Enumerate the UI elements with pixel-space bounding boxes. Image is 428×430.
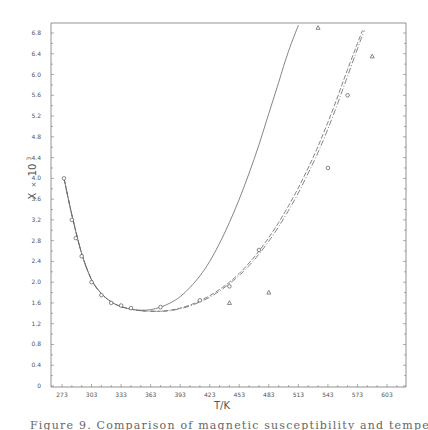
y-axis: 00.40.81.21.62.02.42.83.23.64.04.44.85.2… bbox=[31, 29, 406, 389]
data-point-circle bbox=[228, 285, 232, 289]
y-tick-label: 6.0 bbox=[31, 71, 41, 78]
x-tick-label: 423 bbox=[204, 391, 216, 398]
data-point-circle bbox=[109, 301, 113, 305]
y-tick-label: 2.8 bbox=[31, 237, 41, 244]
data-point-circle bbox=[100, 293, 104, 297]
data-point-circle bbox=[62, 177, 66, 181]
data-point-circle bbox=[326, 166, 330, 170]
y-tick-label: 1.6 bbox=[31, 299, 41, 306]
curve-dashed bbox=[64, 30, 362, 311]
x-tick-label: 603 bbox=[381, 391, 393, 398]
y-tick-label: 0.8 bbox=[31, 340, 41, 347]
plot-frame bbox=[51, 23, 406, 387]
data-point-triangle bbox=[316, 26, 320, 30]
y-axis-title-exponent: 3 bbox=[25, 156, 32, 160]
y-tick-label: 2.4 bbox=[31, 257, 41, 264]
y-tick-label: 5.6 bbox=[31, 91, 41, 98]
figure-caption: Figure 9. Comparison of magnetic suscept… bbox=[30, 419, 428, 430]
plot-border bbox=[51, 23, 406, 387]
data-point-triangle bbox=[370, 54, 374, 58]
data-point-circle bbox=[257, 248, 261, 252]
data-point-circle bbox=[159, 305, 163, 309]
x-tick-label: 333 bbox=[115, 391, 127, 398]
x-tick-label: 573 bbox=[352, 391, 364, 398]
series-markers bbox=[62, 26, 374, 310]
data-point-triangle bbox=[267, 290, 271, 294]
curve-dashdot bbox=[64, 30, 364, 311]
x-tick-label: 363 bbox=[145, 391, 157, 398]
data-point-circle bbox=[119, 304, 123, 308]
y-tick-label: 3.2 bbox=[31, 216, 41, 223]
data-point-circle bbox=[80, 254, 84, 258]
y-tick-label: 5.2 bbox=[31, 112, 41, 119]
data-point-circle bbox=[90, 280, 94, 284]
x-axis: 273303333363393423453483513543573603 bbox=[56, 384, 397, 398]
data-point-circle bbox=[129, 306, 133, 310]
data-point-circle bbox=[346, 93, 350, 97]
x-tick-label: 513 bbox=[293, 391, 305, 398]
y-axis-title-ten: 10 bbox=[27, 164, 38, 177]
x-tick-label: 543 bbox=[322, 391, 334, 398]
curve-solid bbox=[64, 25, 298, 310]
y-tick-label: 1.2 bbox=[31, 320, 41, 327]
data-point-circle bbox=[198, 299, 202, 303]
x-tick-label: 483 bbox=[263, 391, 275, 398]
y-tick-label: 4.8 bbox=[31, 133, 41, 140]
x-tick-label: 453 bbox=[234, 391, 246, 398]
y-tick-label: 6.8 bbox=[31, 29, 41, 36]
y-tick-label: 6.4 bbox=[31, 50, 41, 57]
data-point-triangle bbox=[227, 301, 231, 305]
chart: 00.40.81.21.62.02.42.83.23.64.04.44.85.2… bbox=[0, 0, 428, 430]
data-point-circle bbox=[70, 218, 74, 222]
series-curves bbox=[64, 25, 364, 311]
y-tick-label: 4.4 bbox=[31, 154, 41, 161]
x-tick-label: 303 bbox=[86, 391, 98, 398]
y-tick-label: 0.4 bbox=[31, 361, 41, 368]
x-tick-label: 393 bbox=[174, 391, 186, 398]
y-tick-label: 0 bbox=[37, 382, 41, 389]
y-tick-label: 2.0 bbox=[31, 278, 41, 285]
y-axis-title-symbol: X bbox=[27, 192, 38, 199]
x-tick-label: 273 bbox=[56, 391, 68, 398]
data-point-circle bbox=[74, 236, 78, 240]
y-axis-title-times: × bbox=[30, 182, 38, 188]
x-axis-title: T/K bbox=[213, 400, 230, 411]
